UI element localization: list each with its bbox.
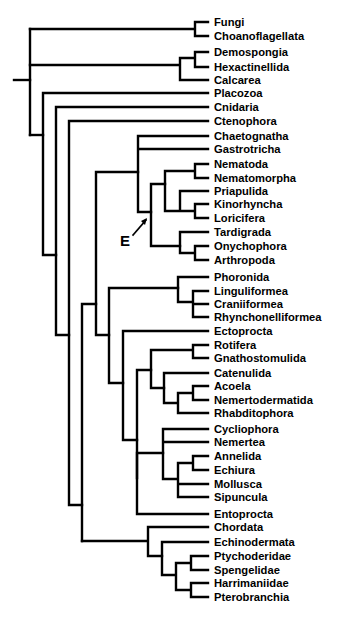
taxon-label: Demospongia — [214, 46, 288, 58]
phylogenetic-tree — [0, 0, 339, 618]
taxon-label: Annelida — [214, 450, 261, 462]
taxon-label: Hexactinellida — [214, 61, 289, 73]
taxon-label: Echiura — [214, 464, 255, 476]
taxon-label: Catenulida — [214, 367, 271, 379]
branch — [138, 136, 208, 212]
taxon-label: Tardigrada — [214, 226, 271, 238]
taxon-label: Nemertea — [214, 436, 265, 448]
branch — [165, 164, 208, 218]
taxon-label: Nemertodermatida — [214, 394, 313, 406]
taxon-label: Gastrotricha — [214, 143, 281, 155]
branch — [30, 22, 208, 36]
taxon-label: Mollusca — [214, 478, 262, 490]
taxon-label: Echinodermata — [214, 536, 295, 548]
taxon-label: Rhynchonelliformea — [214, 311, 322, 323]
taxon-label: Loricifera — [214, 212, 265, 224]
taxon-label: Ectoprocta — [214, 325, 272, 337]
taxon-label: Craniiformea — [214, 298, 283, 310]
taxon-label: Phoronida — [214, 271, 269, 283]
taxon-label: Fungi — [214, 16, 244, 28]
taxon-label: Nematomorpha — [214, 172, 296, 184]
taxon-label: Spengelidae — [214, 564, 280, 576]
taxon-label: Harrimaniidae — [214, 577, 289, 589]
branch — [96, 172, 138, 335]
branch — [164, 373, 208, 413]
taxon-label: Placozoa — [214, 87, 263, 99]
branch — [163, 429, 208, 497]
branch — [180, 232, 208, 260]
branch — [178, 277, 208, 317]
branch — [43, 93, 208, 255]
branch — [30, 52, 208, 80]
taxon-label: Sipuncula — [214, 491, 267, 503]
annotation-label-e: E — [120, 232, 130, 249]
branch — [109, 288, 178, 383]
branch — [82, 304, 96, 541]
taxon-label: Kinorhyncha — [214, 198, 282, 210]
taxon-label: Cnidaria — [214, 101, 259, 113]
taxon-label: Chaetognatha — [214, 130, 289, 142]
taxon-label: Rhabditophora — [214, 407, 294, 419]
taxon-label: Chordata — [214, 521, 263, 533]
taxon-label: Acoela — [214, 380, 251, 392]
taxon-label: Pterobranchia — [214, 591, 289, 603]
taxon-label: Priapulida — [214, 185, 268, 197]
taxon-label: Calcarea — [214, 74, 261, 86]
taxon-label: Rotifera — [214, 339, 256, 351]
taxon-label: Nematoda — [214, 158, 268, 170]
taxon-label: Choanoflagellata — [214, 30, 304, 42]
taxon-label: Cycliophora — [214, 423, 279, 435]
taxon-label: Gnathostomulida — [214, 352, 306, 364]
taxon-label: Linguliformea — [214, 285, 288, 297]
branch — [137, 370, 151, 478]
taxon-label: Entoprocta — [214, 508, 273, 520]
taxon-label: Arthropoda — [214, 254, 275, 266]
taxon-label: Ptychoderidae — [214, 550, 291, 562]
branch — [162, 542, 208, 597]
taxon-label: Onychophora — [214, 240, 287, 252]
taxon-label: Ctenophora — [214, 115, 277, 127]
branch — [151, 345, 208, 388]
